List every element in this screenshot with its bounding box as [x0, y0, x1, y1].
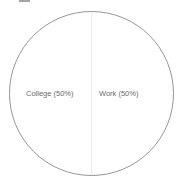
title-fragment	[19, 0, 30, 2]
slice-label-work: Work (50%)	[99, 89, 138, 98]
slice-label-college: College (50%)	[26, 89, 74, 98]
